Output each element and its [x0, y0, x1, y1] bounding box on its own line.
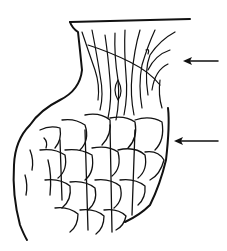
- fibrous-strands: [82, 30, 175, 120]
- cellular-network: [25, 114, 164, 234]
- lower-arrow: [174, 137, 218, 145]
- tissue-illustration: [0, 0, 227, 251]
- upper-arrow: [183, 57, 218, 65]
- sketch-canvas: [0, 0, 227, 251]
